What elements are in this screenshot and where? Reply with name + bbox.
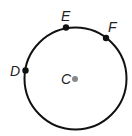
circle-diagram: E F D C (0, 0, 132, 136)
label-e: E (61, 8, 71, 24)
center-point-c (72, 76, 78, 82)
label-c: C (61, 71, 72, 87)
point-d (22, 67, 28, 73)
label-f: F (108, 19, 118, 35)
point-e (63, 24, 69, 30)
point-f (103, 35, 109, 41)
label-d: D (10, 63, 20, 79)
